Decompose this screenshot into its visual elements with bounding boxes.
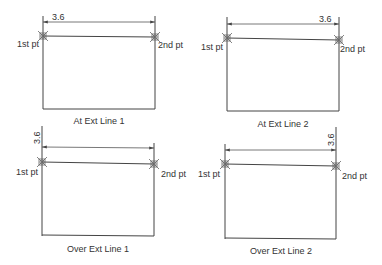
dimension-text: 3.6	[326, 133, 336, 146]
measured-line	[43, 36, 155, 37]
panel-caption: Over Ext Line 1	[67, 244, 129, 254]
panel-caption: At Ext Line 2	[257, 119, 308, 129]
second-point-label: 2nd pt	[340, 44, 366, 54]
dimension-text-placement-diagram: 3.6 1st pt 2nd pt At Ext Line 1 3.6 1st …	[0, 0, 382, 265]
dimension-text: 3.6	[52, 12, 65, 22]
second-point-label: 2nd pt	[161, 169, 187, 179]
panel-at-ext-line-2: 3.6 1st pt 2nd pt At Ext Line 2	[201, 14, 366, 129]
first-point-label: 1st pt	[16, 167, 39, 177]
dimension-line	[42, 147, 154, 148]
rect-bottom	[225, 238, 336, 239]
second-point-label: 2nd pt	[158, 40, 184, 50]
dimension-text: 3.6	[32, 131, 42, 144]
first-point-label: 1st pt	[201, 42, 224, 52]
panel-caption: Over Ext Line 2	[250, 246, 312, 256]
measured-line	[227, 38, 339, 40]
rect-bottom	[42, 235, 154, 236]
measured-line	[42, 162, 154, 164]
second-point-label: 2nd pt	[342, 171, 368, 181]
first-point-label: 1st pt	[17, 39, 40, 49]
panel-at-ext-line-1: 3.6 1st pt 2nd pt At Ext Line 1	[17, 12, 184, 126]
first-point-label: 1st pt	[198, 169, 221, 179]
measured-line	[225, 164, 336, 166]
dimension-text: 3.6	[319, 14, 332, 24]
panel-over-ext-line-2: 3.6 1st pt 2nd pt Over Ext Line 2	[198, 127, 368, 256]
panel-caption: At Ext Line 1	[73, 116, 124, 126]
panel-over-ext-line-1: 3.6 1st pt 2nd pt Over Ext Line 1	[16, 126, 187, 254]
